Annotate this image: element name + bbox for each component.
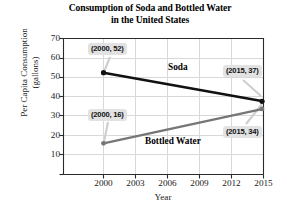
y-axis-ticks: [60, 39, 64, 175]
x-tick-2012: 2012: [215, 178, 249, 188]
x-tick-2015: 2015: [247, 178, 281, 188]
annotation-soda-2015: (2015, 37): [223, 65, 262, 77]
annotation-soda-2000: (2000, 52): [88, 43, 127, 55]
x-axis-label: Year: [63, 192, 263, 202]
x-tick-2006: 2006: [151, 178, 185, 188]
x-tick-2003: 2003: [119, 178, 153, 188]
x-tick-2009: 2009: [183, 178, 217, 188]
series-label-soda: Soda: [168, 62, 188, 72]
data-point-water-2000: [101, 141, 106, 146]
data-point-water-2015: [260, 107, 265, 112]
chart-figure: Consumption of Soda and Bottled Water in…: [0, 0, 287, 214]
data-point-soda-2015: [259, 99, 264, 104]
annotation-water-2000: (2000, 16): [88, 109, 127, 121]
x-tick-2000: 2000: [87, 178, 121, 188]
series-label-bottled-water: Bottled Water: [145, 136, 201, 146]
annotation-water-2015: (2015, 34): [223, 126, 262, 138]
data-point-soda-2000: [101, 70, 106, 75]
